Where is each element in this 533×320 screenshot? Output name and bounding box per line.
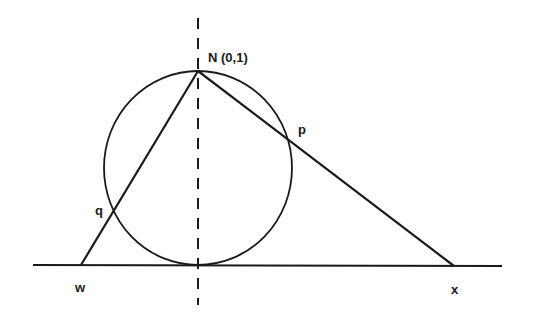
line-n-to-x	[198, 71, 454, 266]
label-p: p	[298, 122, 306, 137]
diagram-canvas: N (0,1) p q w x	[0, 0, 533, 320]
label-x: x	[451, 282, 459, 297]
label-north-pole: N (0,1)	[208, 50, 248, 65]
label-w: w	[74, 280, 86, 295]
line-n-to-w	[81, 71, 198, 265]
label-q: q	[95, 203, 103, 218]
horizontal-axis-line	[33, 265, 502, 266]
